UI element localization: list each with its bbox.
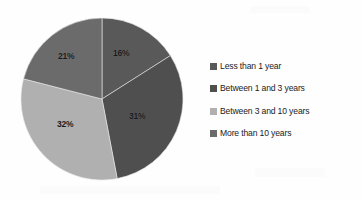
legend-item-label: Between 3 and 10 years (220, 107, 309, 116)
legend-swatch-icon (210, 130, 217, 137)
legend-item-less-than-1-year[interactable]: Less than 1 year (210, 57, 358, 75)
scan-artifact (255, 168, 325, 177)
pie-chart: 16% 31% 32% 21% Less than 1 year Between… (0, 0, 361, 200)
legend-item-between-3-and-10-years[interactable]: Between 3 and 10 years (210, 102, 358, 120)
legend-item-label: More than 10 years (220, 129, 291, 138)
legend-item-between-1-and-3-years[interactable]: Between 1 and 3 years (210, 80, 358, 98)
slice-label-1: 31% (129, 112, 145, 121)
legend-item-label: Between 1 and 3 years (220, 84, 305, 93)
pie-svg (0, 0, 200, 200)
slice-label-0: 16% (113, 49, 129, 58)
legend-swatch-icon (210, 63, 217, 70)
scan-artifact (250, 6, 310, 13)
legend-item-more-than-10-years[interactable]: More than 10 years (210, 125, 358, 143)
pie-slice-group (21, 18, 183, 180)
legend-swatch-icon (210, 108, 217, 115)
pie-plot-area: 16% 31% 32% 21% (0, 0, 200, 200)
slice-label-2: 32% (57, 120, 73, 129)
slice-label-3: 21% (58, 52, 74, 61)
legend-item-label: Less than 1 year (220, 62, 281, 71)
legend-swatch-icon (210, 85, 217, 92)
chart-legend: Less than 1 year Between 1 and 3 years B… (210, 57, 358, 147)
